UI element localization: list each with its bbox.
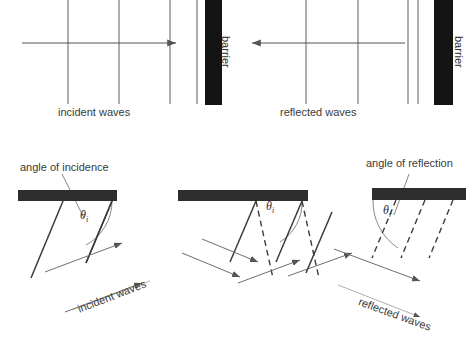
bottom-right-panel xyxy=(334,174,466,317)
wavefront-slant xyxy=(86,201,112,263)
propagation-arrow-reflected xyxy=(182,253,240,277)
theta-reflection-right: θr xyxy=(383,203,392,219)
wavefront-solid xyxy=(306,212,332,273)
barrier-bottom-left xyxy=(18,190,117,201)
barrier-right xyxy=(434,0,453,105)
angle-arc-incidence xyxy=(86,201,112,245)
wavefront-dashed xyxy=(429,200,453,258)
barrier-label-left: barrier xyxy=(220,36,232,68)
wavefront-solid xyxy=(230,201,256,262)
theta-subscript: r xyxy=(389,210,392,219)
caption-reflected-waves-top: reflected waves xyxy=(280,106,356,118)
top-right-panel xyxy=(252,0,453,105)
theta-incidence-middle: θi xyxy=(266,199,274,215)
annotation-angle-of-incidence: angle of incidence xyxy=(20,161,109,173)
theta-subscript: i xyxy=(272,206,274,215)
wave-reflection-diagram: incident waves reflected waves barrier b… xyxy=(0,0,466,339)
propagation-arrow-incident xyxy=(288,253,352,276)
propagation-arrow xyxy=(334,249,420,281)
annotation-angle-of-reflection: angle of reflection xyxy=(366,157,453,169)
propagation-arrow-reflected xyxy=(202,239,258,262)
wavefront-dashed xyxy=(401,200,425,258)
barrier-bottom-right xyxy=(372,188,466,200)
propagation-arrow-incident xyxy=(238,260,300,283)
wavefront-lines-incident xyxy=(68,0,197,104)
barrier-bottom-middle xyxy=(178,190,308,201)
bottom-middle-panel xyxy=(178,190,352,283)
top-left-panel xyxy=(22,0,222,105)
wavefront-lines-reflected xyxy=(306,0,418,104)
barrier-label-right: barrier xyxy=(453,36,465,68)
wavefront-solid xyxy=(276,201,302,262)
wavefront-slant xyxy=(31,201,63,278)
propagation-arrow xyxy=(45,243,122,272)
theta-incidence-left: θi xyxy=(80,208,88,224)
theta-subscript: i xyxy=(86,215,88,224)
caption-incident-waves-top: incident waves xyxy=(58,106,130,118)
